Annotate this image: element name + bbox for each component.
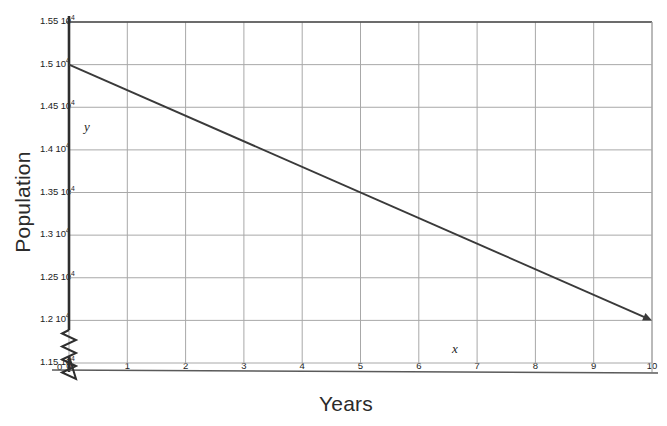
population-line-chart: Population Years y x 0 1.15 1041.2 1041.… bbox=[0, 0, 667, 426]
plot-frame bbox=[52, 16, 658, 373]
plot-area bbox=[0, 0, 667, 426]
